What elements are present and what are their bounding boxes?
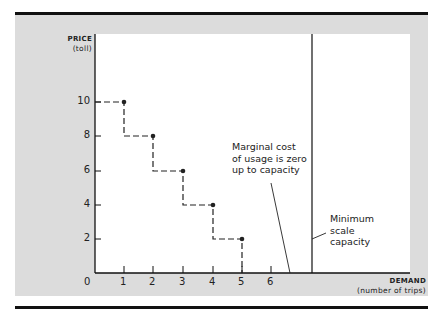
- y-tick-4: 4: [72, 198, 90, 209]
- y-tick-6: 6: [72, 164, 90, 175]
- x-tick-4: 4: [209, 276, 215, 287]
- marginal-cost-annotation: Marginal cost of usage is zero up to cap…: [232, 141, 307, 176]
- x-ticks: [124, 266, 271, 273]
- x-axis-title: DEMAND (number of trips): [320, 277, 426, 295]
- marginal-cost-leader: [271, 183, 290, 273]
- y-tick-2: 2: [72, 232, 90, 243]
- y-tick-8: 8: [72, 129, 90, 140]
- y-ticks: [95, 102, 101, 239]
- x-tick-0: 0: [84, 276, 90, 287]
- x-tick-5: 5: [238, 276, 244, 287]
- x-tick-1: 1: [120, 276, 126, 287]
- capacity-leader: [312, 233, 326, 239]
- demand-step-curve: [95, 102, 242, 273]
- x-tick-3: 3: [179, 276, 185, 287]
- x-tick-6: 6: [267, 276, 273, 287]
- y-tick-10: 10: [72, 95, 90, 106]
- demand-points: [122, 100, 245, 242]
- y-axis-title: PRICE (toll): [60, 35, 92, 53]
- capacity-annotation: Minimum scale capacity: [330, 213, 374, 248]
- x-tick-2: 2: [149, 276, 155, 287]
